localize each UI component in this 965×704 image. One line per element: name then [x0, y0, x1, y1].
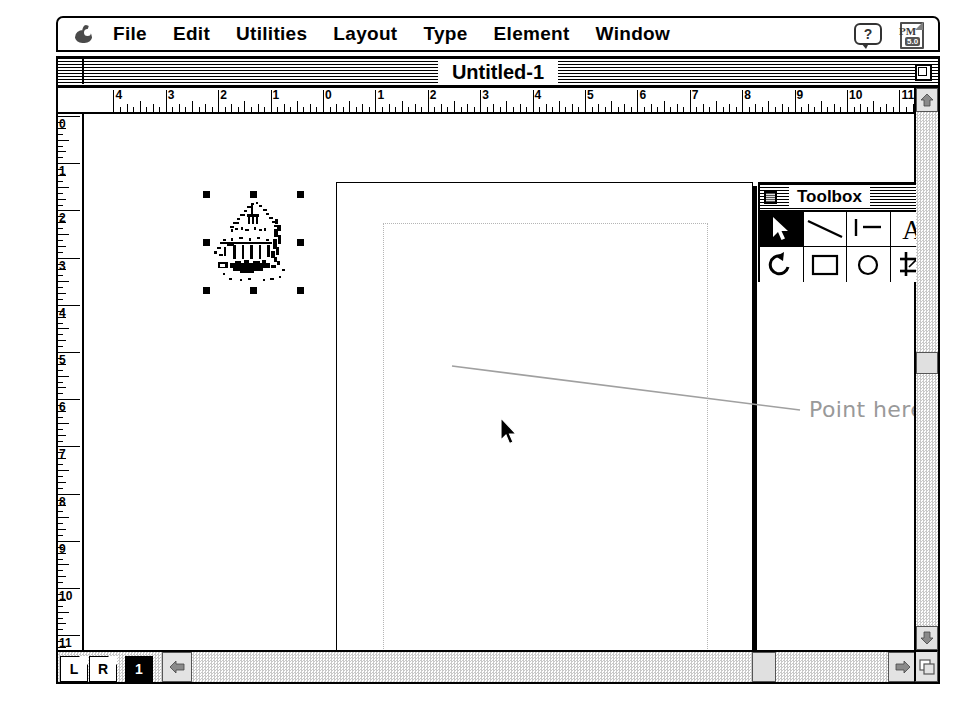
ruler-minor-tick [284, 104, 285, 112]
ruler-minor-tick [58, 488, 63, 489]
ruler-minor-tick [127, 104, 128, 112]
window-resize-grow-box[interactable] [914, 650, 938, 682]
scroll-up-icon [920, 93, 934, 107]
page-dogear-icon [79, 656, 88, 665]
text-tool-icon: A [899, 215, 916, 243]
ruler-minor-tick [58, 146, 63, 147]
selection-handle-se[interactable] [297, 287, 304, 294]
vertical-scrollbar[interactable] [914, 88, 938, 650]
menu-item-window[interactable]: Window [583, 18, 683, 50]
ruler-minor-tick [539, 107, 540, 112]
selection-handle-e[interactable] [297, 239, 304, 246]
pointer-tool[interactable] [760, 212, 804, 247]
menu-item-layout[interactable]: Layout [320, 18, 410, 50]
placed-bitmap-graphic[interactable] [203, 191, 304, 294]
toolbox-palette[interactable]: Toolbox [758, 182, 916, 282]
ruler-minor-tick [500, 107, 501, 112]
ruler-minor-tick [664, 101, 665, 112]
ruler-label: 6 [639, 88, 646, 102]
menu-item-type[interactable]: Type [410, 18, 480, 50]
scroll-down-button[interactable] [916, 626, 938, 650]
apple-menu-button[interactable] [66, 25, 100, 44]
ruler-minor-tick [297, 101, 298, 112]
ruler-minor-tick [886, 104, 887, 112]
ruler-minor-tick [506, 101, 507, 112]
ruler-minor-tick [696, 107, 697, 112]
ruler-minor-tick [212, 107, 213, 112]
horizontal-scroll-thumb[interactable] [752, 652, 776, 682]
horizontal-ruler[interactable]: 432101234567891011 [58, 88, 938, 114]
horizontal-scrollbar[interactable] [162, 650, 918, 682]
ruler-minor-tick [709, 107, 710, 112]
ruler-minor-tick [58, 594, 63, 595]
menu-item-edit[interactable]: Edit [160, 18, 223, 50]
ruler-minor-tick [421, 107, 422, 112]
scroll-up-button[interactable] [916, 88, 938, 112]
ruler-minor-tick [58, 311, 63, 312]
page-dogear-icon [144, 656, 153, 665]
ruler-minor-tick [762, 107, 763, 112]
zoom-box[interactable] [915, 64, 932, 81]
ruler-minor-tick [58, 405, 63, 406]
toolbox-close-box[interactable] [764, 191, 777, 204]
ruler-minor-tick [330, 107, 331, 112]
ruler-minor-tick [434, 107, 435, 112]
master-page-right[interactable]: R [89, 656, 117, 682]
ruler-minor-tick [58, 629, 63, 630]
ruler-minor-tick [58, 600, 66, 601]
ruler-label: 1 [273, 88, 280, 102]
rotate-tool[interactable] [760, 247, 804, 282]
document-page[interactable] [336, 182, 753, 650]
window-title-bar[interactable]: Untitled-1 [58, 58, 938, 88]
ruler-origin-corner[interactable] [58, 58, 84, 84]
vertical-scroll-thumb[interactable] [916, 352, 938, 374]
ruler-minor-tick [814, 107, 815, 112]
crop-tool[interactable] [891, 247, 917, 282]
text-tool[interactable]: A [891, 212, 917, 247]
application-menu-icon[interactable]: PM 5.0 [898, 21, 924, 47]
ruler-major-tick [847, 90, 848, 112]
toolbox-title-bar[interactable]: Toolbox [760, 184, 916, 212]
diagonal-line-tool[interactable] [804, 212, 848, 247]
perpendicular-line-tool[interactable] [847, 212, 891, 247]
svg-text:A: A [903, 215, 917, 243]
scroll-left-button[interactable] [162, 652, 192, 682]
selection-handle-sw[interactable] [203, 287, 210, 294]
ruler-minor-tick [58, 500, 63, 501]
horizontal-scroll-track[interactable] [162, 652, 918, 682]
ruler-minor-tick [526, 107, 527, 112]
menu-item-file[interactable]: File [100, 18, 160, 50]
selection-handle-w[interactable] [203, 239, 210, 246]
selection-handle-ne[interactable] [297, 191, 304, 198]
ruler-minor-tick [860, 104, 861, 112]
document-title: Untitled-1 [438, 60, 558, 84]
rectangle-tool[interactable] [804, 247, 848, 282]
app-badge-version: 5.0 [905, 37, 920, 46]
ruler-minor-tick [349, 101, 350, 112]
ruler-minor-tick [251, 107, 252, 112]
ruler-label: 4 [59, 306, 66, 320]
page-icon-1[interactable]: 1 [125, 656, 153, 682]
ruler-minor-tick [58, 193, 63, 194]
selection-handle-n[interactable] [250, 191, 257, 198]
selection-handle-nw[interactable] [203, 191, 210, 198]
ruler-minor-tick [546, 104, 547, 112]
ruler-label: 0 [59, 117, 66, 131]
ruler-label: 9 [59, 542, 66, 556]
help-balloon-icon[interactable]: ? [854, 23, 882, 45]
vertical-ruler[interactable]: 01234567891011 [58, 114, 84, 650]
ruler-minor-tick [58, 517, 69, 518]
ruler-minor-tick [873, 101, 874, 112]
ruler-major-tick [585, 90, 586, 112]
ruler-label: 5 [59, 353, 66, 367]
menu-item-utilities[interactable]: Utilities [223, 18, 320, 50]
ruler-minor-tick [58, 376, 69, 377]
menu-item-element[interactable]: Element [481, 18, 583, 50]
selection-handle-s[interactable] [250, 287, 257, 294]
ellipse-tool[interactable] [847, 247, 891, 282]
pasteboard-canvas[interactable]: Point here Toolbox [84, 114, 916, 650]
pagemaker-screen: File Edit Utilities Layout Type Element … [0, 0, 965, 704]
master-page-left[interactable]: L [60, 656, 88, 682]
ruler-minor-tick [58, 234, 69, 235]
ruler-minor-tick [159, 107, 160, 112]
